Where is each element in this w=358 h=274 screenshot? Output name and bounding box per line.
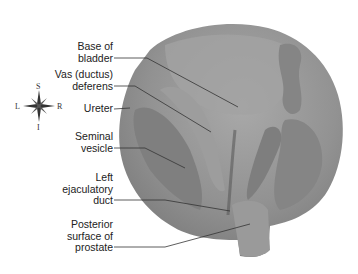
compass-r: R (57, 102, 62, 111)
specimen-illustration (0, 0, 358, 274)
label-vas-deferens: Vas (ductus) deferens (55, 69, 113, 92)
anatomy-figure: S I L R Base of bladder Vas (ductus) def… (0, 0, 358, 274)
label-posterior-surface-of-prostate: Posterior surface of prostate (67, 219, 113, 254)
label-base-of-bladder: Base of bladder (77, 41, 113, 64)
compass-i: I (37, 123, 40, 132)
compass-l: L (15, 102, 20, 111)
compass-s: S (36, 82, 40, 91)
prostate (232, 201, 270, 257)
label-left-ejaculatory-duct: Left ejaculatory duct (62, 172, 113, 207)
label-seminal-vesicle: Seminal vesicle (75, 131, 113, 154)
label-ureter: Ureter (84, 103, 113, 115)
compass-rose-icon (23, 90, 55, 122)
